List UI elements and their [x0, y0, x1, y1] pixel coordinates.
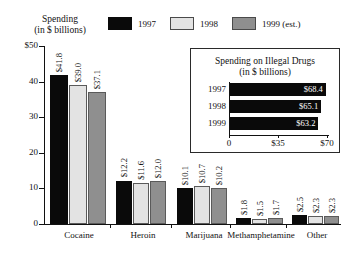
bar	[69, 85, 87, 224]
bar	[133, 183, 149, 224]
bar	[308, 216, 323, 224]
inset-bar-value-label: $65.1	[299, 101, 318, 111]
inset-x-axis-line	[229, 135, 329, 136]
chart-title-line2: (in $ billions)	[14, 25, 106, 36]
y-tick-label-0: 0	[16, 218, 38, 228]
inset-title-line1: Spending on Illegal Drugs	[191, 56, 339, 66]
inset-x-tick-2	[327, 135, 328, 138]
inset-year-label-1997: 1997	[196, 84, 226, 94]
bar-value-label: $2.3	[311, 198, 321, 213]
legend-item-1998: 1998	[170, 17, 218, 30]
category-separator-tick	[171, 224, 172, 228]
legend-swatch-1999	[232, 17, 256, 30]
y-tick-label-20: 20	[16, 147, 38, 157]
legend-item-1997: 1997	[108, 17, 156, 30]
inset-x-tick-label-2: $70	[314, 138, 340, 148]
x-axis-line	[44, 224, 341, 225]
category-separator-tick	[230, 224, 231, 228]
legend-label-1997: 1997	[138, 19, 156, 29]
bar-value-label: $12.0	[153, 159, 163, 178]
bar-value-label: $12.2	[119, 158, 129, 177]
bar	[150, 181, 166, 224]
y-tick-label-30: 30	[16, 111, 38, 121]
chart-title-line1: Spending	[14, 14, 106, 25]
inset-bar-value-label: $63.2	[296, 118, 315, 128]
inset-x-tick-label-0: 0	[216, 138, 242, 148]
y-tick-label-10: 10	[16, 182, 38, 192]
category-separator-tick	[110, 224, 111, 228]
bar-value-label: $1.5	[255, 201, 265, 216]
bar	[88, 92, 106, 224]
inset-bar: $63.2	[230, 117, 318, 130]
inset-plot-area: $68.41997$65.11998$63.21999 0$35$70	[229, 82, 327, 132]
bar	[324, 216, 339, 224]
bar-group-cocaine: $41.8$39.0$37.1	[50, 46, 108, 224]
category-separator-tick	[286, 224, 287, 228]
bar	[194, 186, 210, 224]
legend-label-1998: 1998	[200, 19, 218, 29]
bar-value-label: $10.2	[214, 166, 224, 185]
legend-label-1999: 1999 (est.)	[262, 19, 301, 29]
inset-year-label-1998: 1998	[196, 101, 226, 111]
bar	[177, 188, 193, 224]
y-tick-0	[39, 224, 44, 225]
bar-value-label: $2.3	[327, 198, 337, 213]
bar	[50, 75, 68, 224]
inset-x-tick-1	[278, 135, 279, 138]
category-label-other: Other	[272, 230, 346, 240]
y-axis-line	[44, 46, 45, 224]
bar	[252, 219, 267, 224]
bar	[292, 215, 307, 224]
y-tick-50	[39, 46, 44, 47]
inset-title-line2: (in $ billions)	[191, 67, 339, 77]
y-tick-20	[39, 153, 44, 154]
bar-value-label: $11.6	[136, 161, 146, 180]
y-tick-10	[39, 188, 44, 189]
bar-value-label: $10.1	[180, 166, 190, 185]
inset-bar: $68.4	[230, 83, 326, 96]
bar-value-label: $1.8	[239, 200, 249, 215]
bar-value-label: $2.5	[295, 197, 305, 212]
chart-title: Spending (in $ billions)	[14, 14, 106, 36]
legend-swatch-1998	[170, 17, 194, 30]
inset-bar-value-label: $68.4	[304, 84, 323, 94]
inset-year-label-1999: 1999	[196, 118, 226, 128]
bar	[116, 181, 132, 224]
bar-value-label: $39.0	[73, 63, 83, 82]
legend: 1997 1998 1999 (est.)	[108, 17, 315, 30]
inset-x-tick-label-1: $35	[265, 138, 291, 148]
legend-item-1999: 1999 (est.)	[232, 17, 301, 30]
bar-group-heroin: $12.2$11.6$12.0	[116, 46, 170, 224]
bar-value-label: $1.7	[271, 200, 281, 215]
inset-x-tick-0	[229, 135, 230, 138]
y-tick-40	[39, 82, 44, 83]
bar	[268, 218, 283, 224]
bar	[236, 218, 251, 224]
bar-value-label: $41.8	[54, 53, 64, 72]
y-tick-30	[39, 117, 44, 118]
bar-value-label: $37.1	[92, 70, 102, 89]
y-tick-label-50: $50	[16, 40, 38, 50]
chart-figure: Spending (in $ billions) 1997 1998 1999 …	[0, 0, 346, 259]
legend-swatch-1997	[108, 17, 132, 30]
inset-bar: $65.1	[230, 100, 321, 113]
bar	[211, 188, 227, 224]
y-tick-label-40: 40	[16, 76, 38, 86]
inset-chart: Spending on Illegal Drugs (in $ billions…	[190, 48, 340, 153]
bar-value-label: $10.7	[197, 164, 207, 183]
